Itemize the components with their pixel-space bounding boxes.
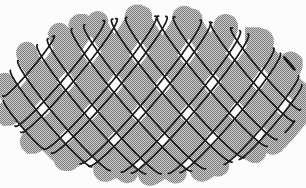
woven-ellipsoid-figure [0,0,306,188]
weave-strips-layer [3,16,303,174]
figure-canvas [0,0,306,188]
